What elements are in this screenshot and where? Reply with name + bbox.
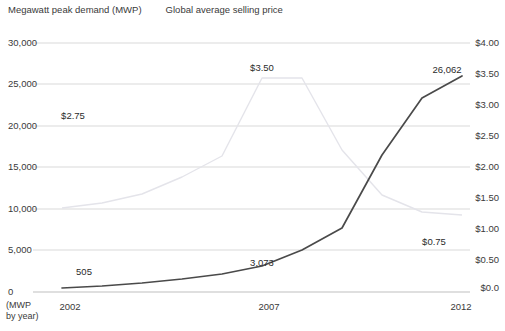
x-axis-unit-line2: by year) [6,311,39,322]
data-label-075: $0.75 [422,236,446,247]
data-label-3073: 3,073 [250,257,274,268]
y2-axis-tick-050: $0.50 [475,255,499,265]
y2-axis-tick-300: $3.00 [475,100,499,110]
chart-container: Megawatt peak demand (MWP)Global average… [0,0,505,331]
data-label-275: $2.75 [61,110,85,121]
y2-axis-tick-000: $0.0 [481,283,500,293]
y-axis-tick-10000: 10,000 [8,204,37,214]
data-label-26062: 26,062 [432,64,461,75]
y2-axis-tick-350: $3.50 [475,69,499,79]
data-label-505: 505 [76,266,92,277]
y2-axis-tick-400: $4.00 [475,38,499,48]
y2-axis-tick-200: $2.00 [475,162,499,172]
y-axis-tick-5000: 5,000 [8,245,32,255]
y-axis-tick-0: 0 [8,287,13,297]
y2-axis-tick-150: $1.50 [475,193,499,203]
price-series-line [62,78,462,215]
data-label-350: $3.50 [250,62,274,73]
x-axis-tick-2007: 2007 [258,302,279,312]
gridlines [33,43,470,292]
y-axis-tick-25000: 25,000 [8,79,37,89]
x-axis-tick-2002: 2002 [59,302,80,312]
y-axis-tick-15000: 15,000 [8,162,37,172]
y-axis-tick-30000: 30,000 [8,38,37,48]
plot-area [0,0,505,331]
y2-axis-tick-250: $2.50 [475,131,499,141]
x-axis-tick-2012: 2012 [450,302,471,312]
y-axis-tick-20000: 20,000 [8,121,37,131]
x-axis-unit-line1: (MWP [6,300,39,311]
x-axis-unit-note: (MWP by year) [6,300,39,322]
y2-axis-tick-100: $1.00 [475,224,499,234]
